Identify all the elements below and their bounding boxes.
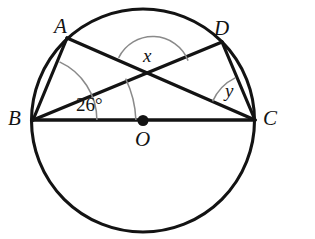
vertex-label-a: A (54, 16, 67, 37)
geometry-figure: A D B C O x y 26° (0, 0, 315, 239)
angle-label-26-degrees: 26° (76, 95, 103, 114)
vertex-label-o: O (135, 129, 150, 150)
vertex-label-b: B (8, 108, 21, 129)
vertex-label-c: C (263, 108, 277, 129)
vertex-label-d: D (214, 18, 229, 39)
angle-label-y: y (225, 81, 233, 100)
angle-arc-26 (126, 79, 136, 120)
angle-arc-x (119, 37, 189, 61)
angle-label-x: x (143, 46, 151, 65)
center-point-dot (138, 115, 149, 126)
